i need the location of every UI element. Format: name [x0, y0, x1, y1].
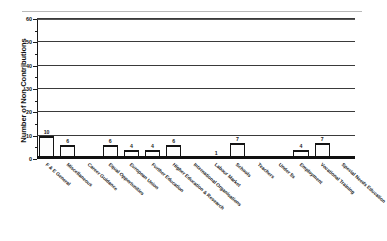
bar-slot[interactable]: [334, 19, 355, 159]
x-tick-slot: Higher Education & Research: [164, 162, 185, 237]
bar-slot[interactable]: [79, 19, 100, 159]
x-tick-slot: Schools: [228, 162, 249, 237]
y-tick-label: 0: [29, 156, 32, 162]
bar-slot[interactable]: [249, 19, 270, 159]
x-axis-baseline: [37, 156, 355, 159]
bar-slot[interactable]: [270, 19, 291, 159]
bar-value-label: 7: [315, 136, 330, 142]
bar-value-label: 4: [293, 143, 308, 149]
bar-slot[interactable]: 6: [101, 19, 122, 159]
x-tick-label: Special Needs Education: [341, 162, 387, 204]
x-tick-slot: Equal Opportunities: [101, 162, 122, 237]
x-axis-category-labels: F & E GeneralMiscellaneousCareer Guidanc…: [37, 162, 355, 237]
x-tick-slot: Labour Market: [207, 162, 228, 237]
bar-value-label: 6: [166, 138, 181, 144]
y-tick-label: 50: [26, 39, 32, 45]
bar-slot[interactable]: 4: [291, 19, 312, 159]
plot-area: 0102030405060 10664461747: [37, 19, 355, 159]
bar-slot[interactable]: 6: [58, 19, 79, 159]
bar-value-label: 7: [230, 136, 245, 142]
x-tick-slot: Vocational Training: [313, 162, 334, 237]
bar-value-label: 1: [209, 150, 224, 156]
bar-value-label: 10: [39, 129, 54, 135]
y-tick-label: 40: [26, 63, 32, 69]
bar-slot[interactable]: 4: [143, 19, 164, 159]
x-tick-slot: International Organisations: [185, 162, 206, 237]
bar-slot[interactable]: 7: [313, 19, 334, 159]
bar-value-label: 6: [103, 138, 118, 144]
bar-value-label: 4: [124, 143, 139, 149]
bar-slot[interactable]: 7: [228, 19, 249, 159]
x-tick-slot: Special Needs Education: [334, 162, 355, 237]
bar-slot[interactable]: 10: [37, 19, 58, 159]
x-tick-slot: Miscellaneous: [58, 162, 79, 237]
y-tick-label: 30: [26, 86, 32, 92]
bar-value-label: 4: [145, 143, 160, 149]
x-tick-slot: Career Guidance: [79, 162, 100, 237]
y-tick-label: 60: [26, 16, 32, 22]
y-tick-mark: [33, 159, 37, 160]
bar-slot[interactable]: 6: [164, 19, 185, 159]
x-tick-slot: European Union: [122, 162, 143, 237]
x-tick-slot: Under 5s: [270, 162, 291, 237]
x-tick-slot: Employment: [291, 162, 312, 237]
x-tick-slot: Further Education: [143, 162, 164, 237]
bar-slot[interactable]: [185, 19, 206, 159]
y-tick-label: 10: [26, 133, 32, 139]
x-tick-slot: F & E General: [37, 162, 58, 237]
bar-slot[interactable]: 1: [207, 19, 228, 159]
bar-series: 10664461747: [37, 19, 355, 159]
bar-slot[interactable]: 4: [122, 19, 143, 159]
y-tick-label: 20: [26, 109, 32, 115]
x-tick-slot: Teachers: [249, 162, 270, 237]
top-rule-divider: [22, 11, 362, 12]
bar-value-label: 6: [60, 138, 75, 144]
